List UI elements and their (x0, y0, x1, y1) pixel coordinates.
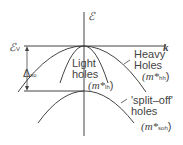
light-holes-label: Light holes (m*lh) (72, 58, 113, 93)
valence-edge-label: ℰV (9, 42, 20, 55)
heavy-holes-label: Heavy Holes (m*hh) (134, 49, 169, 84)
delta-so-label: Δso (23, 68, 37, 81)
band-structure-diagram: ℰ k ℰV Δso Heavy Holes (m*hh) Light hole… (0, 0, 183, 145)
split-off-band (38, 91, 134, 123)
energy-axis-label: ℰ (88, 11, 95, 22)
split-off-holes-label: 'split–off' holes (m*soh) (131, 95, 173, 134)
